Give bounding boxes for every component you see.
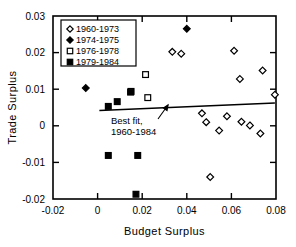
annotation-line2: 1960-1984 — [111, 126, 156, 137]
x-tick-label: 0 — [95, 205, 101, 216]
y-axis-title: Trade Surplus — [6, 70, 18, 144]
x-tick-label: -0.02 — [42, 205, 65, 216]
point-open-diamond — [216, 127, 223, 134]
legend-marker-filled-square — [67, 59, 72, 64]
point-filled-square — [128, 89, 134, 95]
point-filled-diamond — [183, 25, 190, 32]
point-open-diamond — [203, 119, 210, 126]
point-filled-square — [133, 191, 139, 197]
point-open-square — [145, 95, 151, 101]
point-open-diamond — [231, 47, 238, 54]
point-open-diamond — [236, 76, 243, 83]
point-open-diamond — [257, 130, 264, 137]
y-tick-label: -0.02 — [22, 194, 45, 205]
legend-label-1960-1973: 1960-1973 — [76, 24, 119, 34]
legend: 1960-19731974-19751976-19781979-1984 — [61, 20, 136, 67]
point-filled-square — [105, 104, 111, 110]
best-fit-line — [99, 103, 275, 110]
legend-marker-open-square — [67, 48, 72, 53]
point-open-diamond — [178, 50, 185, 57]
legend-label-1976-1978: 1976-1978 — [76, 46, 119, 56]
point-open-diamond — [224, 113, 231, 120]
point-filled-square — [114, 99, 120, 105]
x-tick-label: 0.08 — [266, 205, 286, 216]
point-open-diamond — [247, 122, 254, 129]
chart-figure: -0.0200.020.040.060.080.030.020.010-0.01… — [0, 0, 296, 247]
x-axis-title: Budget Surplus — [124, 225, 205, 237]
point-filled-square — [105, 153, 111, 159]
point-open-diamond — [169, 48, 176, 55]
point-open-square — [143, 72, 149, 78]
series-1960-1973 — [169, 47, 278, 180]
point-open-diamond — [238, 118, 245, 125]
y-tick-label: -0.01 — [22, 157, 45, 168]
point-open-diamond — [259, 67, 266, 74]
point-open-diamond — [207, 174, 214, 181]
legend-label-1974-1975: 1974-1975 — [76, 35, 119, 45]
y-tick-label: 0.02 — [26, 47, 46, 58]
y-tick-label: 0.03 — [26, 11, 46, 22]
scatter-plot: -0.0200.020.040.060.080.030.020.010-0.01… — [0, 0, 296, 247]
y-tick-label: 0 — [39, 120, 45, 131]
x-tick-label: 0.02 — [132, 205, 152, 216]
x-tick-label: 0.06 — [222, 205, 242, 216]
annotation-line1: Best fit, — [111, 115, 143, 126]
series-1976-1978 — [128, 72, 151, 101]
point-open-diamond — [271, 91, 278, 98]
point-open-diamond — [199, 110, 206, 117]
y-tick-label: 0.01 — [26, 84, 46, 95]
fit-line — [99, 103, 275, 110]
x-tick-label: 0.04 — [177, 205, 197, 216]
point-filled-diamond — [82, 85, 89, 92]
legend-label-1979-1984: 1979-1984 — [76, 57, 119, 67]
point-filled-square — [135, 153, 141, 159]
series-1979-1984 — [105, 89, 140, 197]
